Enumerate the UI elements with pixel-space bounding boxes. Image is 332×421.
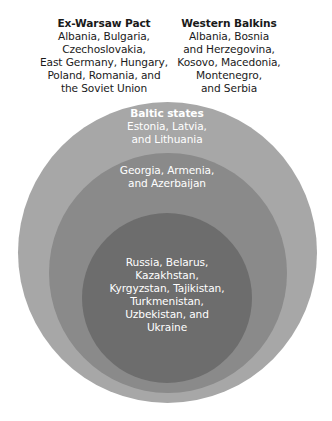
ex-warsaw-pact-title: Ex-Warsaw Pact [38,17,170,30]
western-balkans-line: and Serbia [168,82,290,95]
core-states-line: Kazakhstan, [92,269,242,282]
western-balkans-line: Albania, Bosnia [168,30,290,43]
ex-warsaw-pact-label: Ex-Warsaw Pact Albania, Bulgaria, Czecho… [38,17,170,95]
baltic-states-title: Baltic states [100,107,234,120]
caucasus-line: and Azerbaijan [90,177,244,190]
ex-warsaw-pact-line: Czechoslovakia, [38,43,170,56]
core-states-line: Turkmenistan, [92,295,242,308]
ex-warsaw-pact-line: Albania, Bulgaria, [38,30,170,43]
western-balkans-line: Kosovo, Macedonia, [168,56,290,69]
western-balkans-line: Montenegro, [168,69,290,82]
western-balkans-title: Western Balkins [168,17,290,30]
ex-warsaw-pact-line: the Soviet Union [38,82,170,95]
caucasus-label: Georgia, Armenia, and Azerbaijan [90,164,244,190]
western-balkans-line: and Herzegovina, [168,43,290,56]
core-states-line: Uzbekistan, and [92,308,242,321]
baltic-states-line: and Lithuania [100,133,234,146]
western-balkans-label: Western Balkins Albania, Bosnia and Herz… [168,17,290,95]
ex-warsaw-pact-line: Poland, Romania, and [38,69,170,82]
core-states-line: Ukraine [92,321,242,334]
core-states-line: Russia, Belarus, [92,256,242,269]
baltic-states-label: Baltic states Estonia, Latvia, and Lithu… [100,107,234,146]
baltic-states-line: Estonia, Latvia, [100,120,234,133]
core-states-line: Kyrgyzstan, Tajikistan, [92,282,242,295]
core-states-label: Russia, Belarus, Kazakhstan, Kyrgyzstan,… [92,256,242,334]
caucasus-line: Georgia, Armenia, [90,164,244,177]
ex-warsaw-pact-line: East Germany, Hungary, [38,56,170,69]
